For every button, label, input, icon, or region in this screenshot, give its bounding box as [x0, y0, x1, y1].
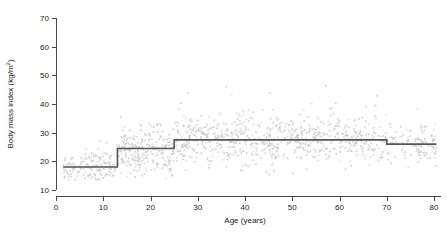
data-point — [97, 148, 99, 150]
data-point — [231, 131, 233, 133]
data-point — [293, 122, 295, 124]
data-point — [123, 162, 125, 164]
data-point — [237, 137, 239, 139]
data-point — [156, 125, 158, 127]
data-point — [135, 156, 137, 158]
data-point — [394, 156, 396, 158]
data-point — [128, 143, 130, 145]
data-point — [131, 154, 133, 156]
data-point — [302, 143, 304, 145]
data-point — [348, 126, 350, 128]
data-point — [285, 123, 287, 125]
data-point — [185, 160, 187, 162]
data-point — [108, 161, 110, 163]
x-tick-label: 30 — [193, 203, 202, 212]
data-point — [276, 151, 278, 153]
data-point — [383, 135, 385, 137]
data-point — [195, 156, 197, 158]
data-point — [229, 141, 231, 143]
data-point — [347, 150, 349, 152]
data-point — [194, 161, 196, 163]
data-point — [182, 159, 184, 161]
data-point — [351, 150, 353, 152]
data-point — [146, 151, 148, 153]
data-point — [66, 171, 68, 173]
data-point — [294, 152, 296, 154]
data-point — [278, 155, 280, 157]
data-point — [319, 150, 321, 152]
data-point — [307, 145, 309, 147]
data-point — [94, 173, 96, 175]
data-point — [226, 152, 228, 154]
data-point — [181, 146, 183, 148]
data-point — [235, 151, 237, 153]
data-point — [160, 153, 162, 155]
data-point — [266, 132, 268, 134]
data-point — [306, 150, 308, 152]
data-point — [339, 120, 341, 122]
data-point — [172, 160, 174, 162]
data-point — [343, 128, 345, 130]
data-point — [184, 145, 186, 147]
data-point — [335, 102, 337, 104]
data-point — [240, 133, 242, 135]
bmi-age-scatter-chart: 10203040506070 01020304050607080 Age (ye… — [0, 0, 447, 233]
data-point — [227, 159, 229, 161]
data-point — [297, 141, 299, 143]
data-point — [66, 164, 68, 166]
data-point — [227, 129, 229, 131]
data-point — [376, 95, 378, 97]
data-point — [356, 154, 358, 156]
y-axis-ticks: 10203040506070 — [40, 14, 56, 195]
data-point — [365, 134, 367, 136]
data-point — [239, 143, 241, 145]
data-point — [228, 146, 230, 148]
data-point — [306, 169, 308, 171]
data-point — [301, 158, 303, 160]
data-point — [177, 122, 179, 124]
data-point — [361, 135, 363, 137]
data-point — [121, 136, 123, 138]
data-point — [126, 138, 128, 140]
data-point — [407, 136, 409, 138]
data-point — [404, 157, 406, 159]
data-point — [292, 133, 294, 135]
data-point — [359, 130, 361, 132]
data-point — [364, 127, 366, 129]
y-tick-label: 40 — [40, 100, 49, 109]
data-point — [63, 164, 65, 166]
data-point — [248, 120, 250, 122]
data-point — [91, 169, 93, 171]
data-point — [435, 165, 437, 167]
data-point — [64, 159, 66, 161]
data-point — [240, 131, 242, 133]
data-point — [121, 153, 123, 155]
data-point — [420, 125, 422, 127]
data-point — [414, 141, 416, 143]
data-point — [391, 137, 393, 139]
data-point — [279, 124, 281, 126]
data-point — [180, 102, 182, 104]
data-point — [194, 126, 196, 128]
data-point — [234, 149, 236, 151]
data-point — [125, 156, 127, 158]
data-point — [284, 137, 286, 139]
data-point — [239, 114, 241, 116]
data-point — [295, 141, 297, 143]
data-point — [248, 109, 250, 111]
data-point — [221, 130, 223, 132]
data-point — [119, 149, 121, 151]
data-point — [321, 121, 323, 123]
data-point — [271, 157, 273, 159]
data-point — [198, 127, 200, 129]
data-point — [334, 148, 336, 150]
data-point — [310, 150, 312, 152]
data-point — [235, 141, 237, 143]
data-point — [353, 145, 355, 147]
data-point — [121, 140, 123, 142]
data-point — [239, 120, 241, 122]
data-point — [126, 139, 128, 141]
data-point — [337, 118, 339, 120]
data-point — [309, 131, 311, 133]
data-point — [260, 157, 262, 159]
